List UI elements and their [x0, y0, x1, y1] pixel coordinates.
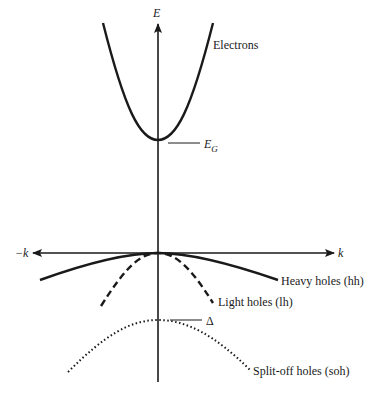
light-holes-curve	[101, 253, 213, 306]
heavy-holes-curve	[40, 253, 278, 280]
electron-band-label: Electrons	[213, 38, 259, 52]
energy-axis-label: E	[152, 6, 161, 20]
k-axis-left-label: −k	[15, 246, 29, 260]
band-structure-diagram: E k −k Electrons EG Heavy holes (hh) Lig…	[0, 0, 377, 393]
k-axis-right-label: k	[338, 246, 344, 260]
split-off-holes-curve	[68, 320, 250, 372]
light-holes-label: Light holes (lh)	[218, 295, 293, 309]
band-gap-label: EG	[203, 137, 218, 154]
split-off-holes-label: Split-off holes (soh)	[253, 364, 349, 378]
heavy-holes-label: Heavy holes (hh)	[281, 274, 364, 288]
split-off-energy-label: Δ	[206, 314, 214, 328]
